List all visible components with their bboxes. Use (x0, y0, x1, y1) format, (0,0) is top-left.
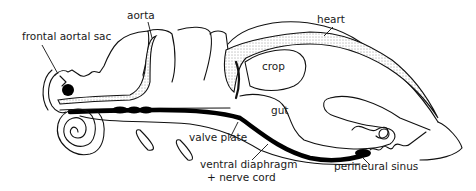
label-nerve-cord: + nerve cord (207, 171, 276, 183)
label-aorta: aorta (127, 9, 155, 21)
label-valve-plate: valve plate (189, 131, 247, 143)
label-gut: gut (271, 104, 288, 116)
label-heart: heart (317, 13, 345, 25)
label-perineural-sinus: perineural sinus (334, 160, 418, 172)
nerve-cord (70, 107, 426, 161)
heart (224, 32, 438, 118)
label-frontal-aortal-sac: frontal aortal sac (22, 30, 112, 42)
aorta (58, 36, 230, 110)
label-crop: crop (262, 60, 285, 72)
label-ventral-diaphragm: ventral diaphragm (200, 158, 297, 170)
head (43, 70, 74, 113)
anatomy-diagram: frontal aortal sac aorta heart crop gut … (0, 0, 476, 191)
